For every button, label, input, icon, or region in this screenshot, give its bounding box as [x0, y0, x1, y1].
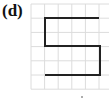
s-shaped-path	[45, 18, 100, 75]
grid-path-diagram	[0, 0, 109, 100]
stray-dot	[81, 96, 83, 98]
